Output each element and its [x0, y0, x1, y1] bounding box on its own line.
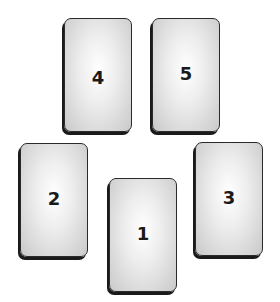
- card-1: 1: [109, 178, 177, 292]
- card-5: 5: [152, 18, 220, 132]
- card-1-number: 1: [110, 223, 176, 244]
- card-3: 3: [195, 142, 263, 256]
- card-2: 2: [20, 143, 88, 257]
- card-2-number: 2: [21, 188, 87, 209]
- card-4: 4: [64, 18, 132, 132]
- card-3-number: 3: [196, 187, 262, 208]
- card-4-number: 4: [65, 67, 131, 88]
- card-5-number: 5: [153, 63, 219, 84]
